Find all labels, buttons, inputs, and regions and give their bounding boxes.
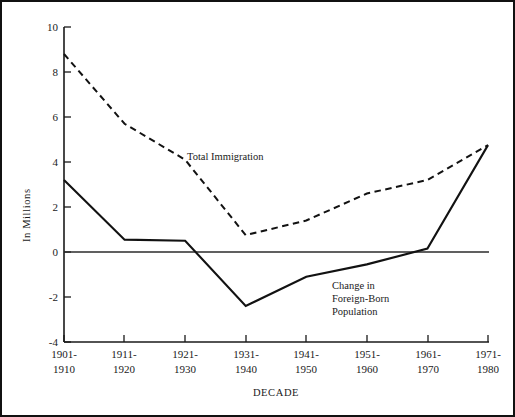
x-tick-label-top: 1921- bbox=[172, 348, 198, 360]
y-axis-tick-labels: 10 8 6 4 2 0 -2 -4 bbox=[47, 21, 59, 348]
x-tick-label-bottom: 1950 bbox=[295, 363, 318, 375]
x-tick-label-bottom: 1930 bbox=[174, 363, 197, 375]
series-line-total-immigration bbox=[64, 54, 488, 235]
y-tick-label: 0 bbox=[53, 246, 59, 258]
x-axis-tick-labels: 1901- 1910 1911- 1920 1921- 1930 1931- 1… bbox=[51, 348, 501, 375]
chart-page: 10 8 6 4 2 0 -2 -4 In Millions bbox=[0, 0, 515, 417]
y-tick-label: 4 bbox=[53, 156, 59, 168]
y-tick-label: 6 bbox=[53, 111, 59, 123]
x-tick-label-top: 1951- bbox=[354, 348, 380, 360]
x-tick-label-bottom: 1960 bbox=[356, 363, 379, 375]
chart-svg: 10 8 6 4 2 0 -2 -4 In Millions bbox=[2, 2, 515, 417]
x-tick-label-bottom: 1980 bbox=[477, 363, 500, 375]
y-tick-label: 2 bbox=[53, 201, 59, 213]
x-tick-label-top: 1911- bbox=[111, 348, 137, 360]
series-annotation-total-immigration: Total Immigration bbox=[187, 151, 264, 162]
x-tick-label-bottom: 1940 bbox=[235, 363, 258, 375]
y-axis-title: In Millions bbox=[21, 188, 32, 242]
x-tick-label-bottom: 1970 bbox=[417, 363, 440, 375]
x-axis-title: DECADE bbox=[253, 387, 299, 398]
immigration-line-chart: 10 8 6 4 2 0 -2 -4 In Millions bbox=[2, 2, 513, 415]
y-tick-label: 10 bbox=[47, 21, 59, 33]
series-label-change-line-2: Foreign-Born bbox=[332, 293, 390, 304]
x-tick-label-top: 1961- bbox=[415, 348, 441, 360]
y-tick-label: -4 bbox=[49, 336, 59, 348]
series-label-total-immigration: Total Immigration bbox=[187, 151, 264, 162]
x-tick-label-top: 1971- bbox=[475, 348, 501, 360]
series-label-change-line-1: Change in bbox=[332, 280, 376, 291]
x-tick-label-bottom: 1920 bbox=[113, 363, 136, 375]
y-tick-label: 8 bbox=[53, 66, 59, 78]
y-tick-label: -2 bbox=[49, 291, 58, 303]
x-tick-label-top: 1931- bbox=[233, 348, 259, 360]
x-tick-label-top: 1901- bbox=[51, 348, 77, 360]
series-annotation-change-foreign-born: Change in Foreign-Born Population bbox=[332, 280, 390, 317]
series-line-change-foreign-born bbox=[64, 145, 488, 306]
x-axis-ticks bbox=[64, 335, 488, 342]
x-tick-label-top: 1941- bbox=[293, 348, 319, 360]
x-tick-label-bottom: 1910 bbox=[53, 363, 76, 375]
series-label-change-line-3: Population bbox=[332, 306, 378, 317]
